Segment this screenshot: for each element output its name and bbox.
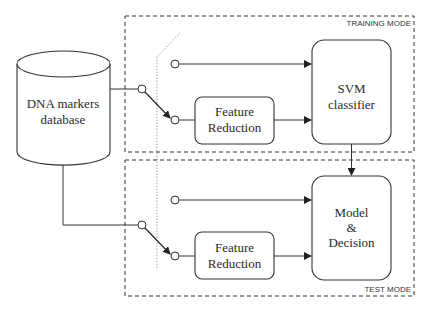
switch-separator xyxy=(157,33,180,270)
feature-reduction-test-box: Feature Reduction xyxy=(195,232,274,279)
svg-text:Decision: Decision xyxy=(328,235,375,250)
svg-text:Feature: Feature xyxy=(215,240,254,255)
svg-text:SVM: SVM xyxy=(337,81,366,96)
feature-reduction-train-box: Feature Reduction xyxy=(195,97,274,144)
test-mode-label: TEST MODE xyxy=(364,285,411,294)
svg-text:classifier: classifier xyxy=(328,97,376,112)
svg-text:&: & xyxy=(346,220,356,235)
diagram-canvas: TRAINING MODE TEST MODE DNA markers data… xyxy=(0,0,431,312)
switch-pivot-test xyxy=(138,221,146,229)
svg-text:Feature: Feature xyxy=(215,104,254,119)
svg-text:Model: Model xyxy=(335,205,369,220)
database-label-line1: DNA markers xyxy=(27,96,100,111)
database-label-line2: database xyxy=(41,112,86,127)
svm-classifier-box: SVM classifier xyxy=(312,40,391,144)
svg-text:Reduction: Reduction xyxy=(208,120,262,135)
svg-text:Reduction: Reduction xyxy=(208,256,262,271)
switch-contact-reduction-test xyxy=(171,252,179,260)
switch-pivot-train xyxy=(138,85,146,93)
training-mode-label: TRAINING MODE xyxy=(347,19,411,28)
database-cylinder: DNA markers database xyxy=(17,51,110,165)
switch-contact-bypass-test xyxy=(171,196,179,204)
switch-contact-bypass-train xyxy=(171,60,179,68)
model-decision-box: Model & Decision xyxy=(312,176,391,280)
switch-arm-train xyxy=(145,92,170,118)
switch-contact-reduction-train xyxy=(171,116,179,124)
switch-arm-test xyxy=(145,228,170,254)
